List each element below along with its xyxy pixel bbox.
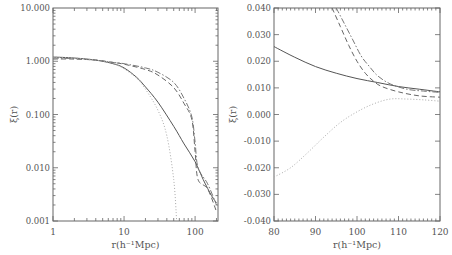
right-panel-linear-plot: 80901001101200.0400.0300.0200.0100.000-0… (227, 3, 449, 250)
y-tick-label: 0.030 (247, 30, 271, 40)
y-tick-label: -0.040 (244, 216, 271, 226)
y-tick-label: 1.000 (26, 56, 50, 66)
y-tick-label: -0.020 (244, 163, 271, 173)
y-tick-label: 0.020 (247, 56, 271, 66)
y-tick-label: 0.040 (247, 3, 271, 13)
x-axis-label: r(h⁻¹Mpc) (111, 239, 159, 250)
y-tick-label: 0.000 (247, 110, 271, 120)
axis-ticks (53, 8, 218, 221)
series-group (53, 57, 216, 221)
y-axis-label: ξ(r) (227, 106, 238, 123)
plot-frame (274, 8, 440, 221)
x-tick-label: 110 (390, 227, 407, 237)
x-tick-label: 100 (187, 227, 204, 237)
series-line-dash-dot (336, 8, 440, 92)
x-tick-label: 90 (310, 227, 322, 237)
plot-frame (53, 8, 218, 221)
series-line-dotted (274, 99, 440, 177)
x-axis-label: r(h⁻¹Mpc) (333, 239, 381, 250)
series-line-dash-dot (53, 58, 216, 205)
y-tick-label: 0.010 (26, 163, 50, 173)
x-tick-label: 100 (348, 227, 365, 237)
left-panel-log-plot: 11010010.0001.0000.1000.0100.001r(h⁻¹Mpc… (8, 3, 218, 250)
y-tick-label: -0.010 (244, 136, 271, 146)
y-tick-label: 0.010 (247, 83, 271, 93)
x-tick-label: 80 (268, 227, 280, 237)
series-line-solid (274, 47, 440, 92)
y-tick-label: 0.001 (26, 216, 50, 226)
series-line-dashed (53, 59, 216, 212)
figure: 11010010.0001.0000.1000.0100.001r(h⁻¹Mpc… (0, 0, 452, 255)
series-line-dotted (53, 57, 177, 221)
x-tick-label: 1 (50, 227, 56, 237)
y-tick-label: -0.030 (244, 189, 271, 199)
y-axis-label: ξ(r) (8, 106, 19, 123)
y-tick-label: 10.000 (20, 3, 50, 13)
y-tick-label: 0.100 (26, 110, 50, 120)
series-line-solid (53, 57, 216, 203)
x-tick-label: 10 (118, 227, 130, 237)
series-group (274, 8, 440, 177)
axis-ticks (274, 8, 440, 221)
x-tick-label: 120 (431, 227, 448, 237)
